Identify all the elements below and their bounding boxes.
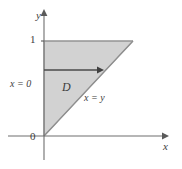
- x-axis-label: x: [163, 141, 168, 152]
- x-axis-arrowhead: [162, 132, 169, 139]
- y-axis-label: y: [36, 10, 41, 21]
- region-label-d: D: [62, 81, 71, 93]
- y-tick-label-1: 1: [30, 34, 36, 45]
- diagonal-boundary-label: x = y: [84, 93, 105, 103]
- left-boundary-label: x = 0: [10, 79, 31, 89]
- y-axis-arrowhead: [41, 9, 48, 16]
- math-diagram-figure: y x 1 0 x = 0 D x = y: [0, 0, 182, 169]
- origin-label: 0: [30, 131, 36, 142]
